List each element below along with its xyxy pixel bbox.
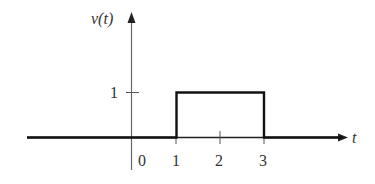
v-axis-arrow-icon (128, 12, 136, 23)
y-axis-label: v(t) (91, 10, 113, 28)
x-tick-label-2: 2 (215, 152, 223, 169)
pulse-diagram: v(t) t 1 0 1 2 3 (0, 0, 375, 184)
x-tick-label-1: 1 (172, 152, 180, 169)
x-axis-label: t (352, 129, 357, 146)
y-tick-label-1: 1 (110, 84, 118, 101)
pulse-signal (27, 93, 343, 138)
x-tick-label-3: 3 (259, 152, 267, 169)
x-tick-label-0: 0 (138, 152, 146, 169)
